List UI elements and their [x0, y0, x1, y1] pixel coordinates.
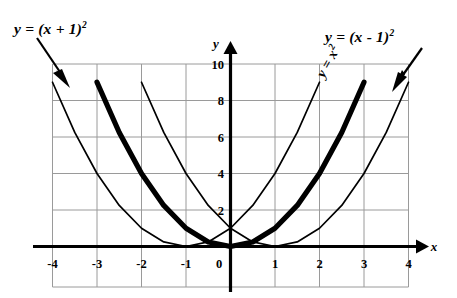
parabola-graph-figure: -4 -3 -2 -1 0 1 2 3 4 10 8 6 4 2 x y — [0, 0, 457, 298]
left-equation-text: y = (x + 1) — [14, 20, 82, 37]
x-tick-label: -1 — [181, 257, 191, 271]
annotation-label-right: y = (x - 1)2 — [325, 28, 394, 46]
annotation-label-left: y = (x + 1)2 — [14, 20, 87, 38]
y-tick-label: 2 — [218, 204, 224, 218]
left-equation-exponent: 2 — [82, 20, 87, 30]
x-tick-label: 2 — [316, 257, 322, 271]
y-axis-label: y — [211, 36, 219, 51]
y-axis-arrowhead-icon — [224, 41, 238, 54]
left-pointer-arrowhead-fill-icon — [53, 69, 70, 88]
right-equation-exponent: 2 — [389, 28, 394, 38]
x-tick-label: 1 — [272, 257, 278, 271]
y-tick-label: 6 — [218, 131, 224, 145]
x-axis-label: x — [430, 239, 438, 254]
y-tick-label: 8 — [218, 94, 224, 108]
x-tick-label: -2 — [136, 257, 146, 271]
y-tick-label: 10 — [212, 58, 225, 72]
right-equation-text: y = (x - 1) — [325, 28, 389, 45]
y-tick-label: 4 — [218, 167, 225, 181]
x-tick-label: 4 — [405, 257, 412, 271]
x-tick-label: -4 — [47, 257, 58, 271]
annotation-arrow-left — [37, 38, 70, 88]
x-tick-label: -3 — [92, 257, 102, 271]
x-axis-arrowhead-icon — [416, 240, 429, 254]
y-axis — [224, 41, 238, 292]
x-tick-label: 3 — [361, 257, 367, 271]
x-tick-label: 0 — [216, 257, 222, 271]
